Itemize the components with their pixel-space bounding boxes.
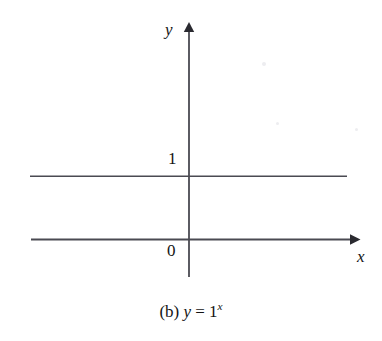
tick-label-origin: 0	[167, 242, 176, 259]
tick-label-one: 1	[168, 150, 177, 167]
caption-exponent: x	[218, 300, 223, 312]
scan-artifact	[276, 122, 279, 125]
coordinate-plot	[0, 0, 382, 300]
caption-index: (b)	[159, 302, 179, 321]
y-axis-label: y	[165, 21, 173, 38]
x-axis-arrow-icon	[350, 234, 361, 245]
figure-caption: (b) y = 1x	[0, 303, 382, 322]
scan-artifact	[355, 128, 358, 131]
figure-graph-of-y-equals-1-to-the-x: y x 1 0 (b) y = 1x	[0, 0, 382, 341]
caption-variable: y	[183, 302, 191, 321]
y-axis-arrow-icon	[184, 22, 194, 32]
x-axis-label: x	[357, 248, 365, 265]
caption-relation: =	[195, 302, 205, 321]
caption-base: 1	[209, 302, 218, 321]
scan-artifact	[262, 62, 266, 66]
